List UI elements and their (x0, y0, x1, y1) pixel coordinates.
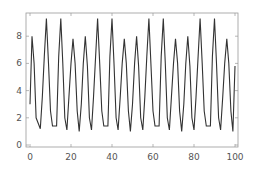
y-tick-label: 4 (16, 86, 22, 96)
y-tick-label: 6 (16, 58, 22, 68)
y-tick-label: 8 (16, 31, 22, 41)
x-tick-label: 80 (188, 152, 200, 162)
x-tick-label: 60 (147, 152, 159, 162)
y-tick-label: 0 (16, 140, 22, 150)
line-chart: 02468 020406080100 (0, 0, 256, 173)
y-tick-label: 2 (16, 113, 22, 123)
x-tick-label: 0 (27, 152, 33, 162)
x-tick-label: 40 (106, 152, 118, 162)
x-tick-label: 20 (65, 152, 77, 162)
data-line (30, 19, 235, 132)
x-tick-label: 100 (226, 152, 243, 162)
